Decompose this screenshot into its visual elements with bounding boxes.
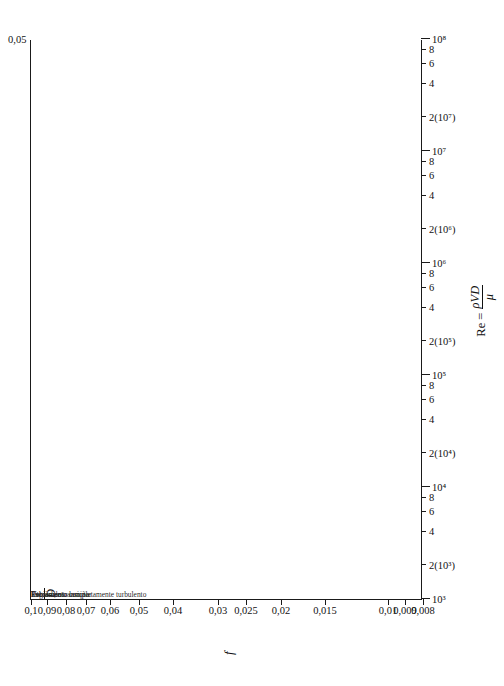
x-axis-tick xyxy=(421,161,426,162)
x-axis-tick-label: 10⁸ xyxy=(432,34,446,45)
y-axis-tick-label: 0,02 xyxy=(272,605,290,616)
x-axis-tick xyxy=(421,598,430,599)
rotated-chart-canvas: 0,10,090,080,070,060,050,040,030,0250,02… xyxy=(0,0,504,686)
x-axis-tick-label: 10⁴ xyxy=(432,482,446,493)
x-axis-tick-label: 10⁵ xyxy=(432,370,446,381)
x-axis-tick-label: 6 xyxy=(429,394,434,405)
y-axis-tick-label: 0,04 xyxy=(164,605,182,616)
y-axis-tick-label: 0,1 xyxy=(24,605,37,616)
y-axis-tick-label: 0,07 xyxy=(77,605,95,616)
x-axis-tick-label: 4 xyxy=(429,190,434,201)
x-axis-tick xyxy=(421,38,430,39)
x-axis-tick-label: 6 xyxy=(429,282,434,293)
moody-diagram-figure: 0,10,090,080,070,060,050,040,030,0250,02… xyxy=(0,0,504,686)
x-axis-tick-label: 6 xyxy=(429,170,434,181)
x-axis-tick xyxy=(421,287,426,288)
x-axis-tick-label: 4 xyxy=(429,78,434,89)
y-axis-tick-label: 0,06 xyxy=(101,605,119,616)
x-axis-title-denominator: μ xyxy=(483,285,496,310)
x-axis-tick-label: 2(10⁵) xyxy=(429,336,455,347)
x-axis-tick xyxy=(421,340,426,341)
x-axis-tick xyxy=(421,497,426,498)
x-axis-tick-label: 6 xyxy=(429,58,434,69)
y-axis-title: f xyxy=(221,651,237,655)
x-axis-tick xyxy=(421,385,426,386)
x-axis-tick xyxy=(421,307,426,308)
y-axis-tick-label: 0,03 xyxy=(209,605,227,616)
y-axis-tick-label: 0,08 xyxy=(56,605,74,616)
plot-area: 0,10,090,080,070,060,050,040,030,0250,02… xyxy=(30,40,422,600)
x-axis-tick-label: 4 xyxy=(429,414,434,425)
x-axis-tick-label: 4 xyxy=(429,526,434,537)
x-axis-tick-label: 6 xyxy=(429,506,434,517)
x-axis-tick xyxy=(421,150,430,151)
x-axis-title: Re = ρVDμ xyxy=(469,285,495,337)
y-axis-title-text: f xyxy=(221,651,236,655)
y-axis-tick-label: 0,09 xyxy=(38,605,56,616)
y-axis-tick-label: 0,05 xyxy=(129,605,147,616)
x-axis-tick xyxy=(421,273,426,274)
x-axis-tick xyxy=(421,195,426,196)
x-axis-tick-label: 8 xyxy=(429,492,434,503)
x-axis-title-fraction: ρVDμ xyxy=(469,285,495,310)
y-axis-tick-label: 0,015 xyxy=(314,605,338,616)
x-axis-tick-label: 4 xyxy=(429,302,434,313)
x-axis-tick-label: 2(10⁶) xyxy=(429,224,455,235)
x-axis-tick xyxy=(421,262,430,263)
x-axis-tick xyxy=(421,175,426,176)
x-axis-tick xyxy=(421,63,426,64)
x-axis-tick xyxy=(421,564,426,565)
x-axis-tick-label: 8 xyxy=(429,156,434,167)
y-axis-tick-label: 0,025 xyxy=(234,605,258,616)
curve-layer xyxy=(31,39,423,599)
x-axis-tick-label: 10⁷ xyxy=(432,146,446,157)
relative-roughness-label: 0,05 xyxy=(8,34,26,45)
x-axis-tick-label: 8 xyxy=(429,268,434,279)
annotation-smooth-pipes: Tubos lisos xyxy=(31,591,65,599)
x-axis-tick xyxy=(421,49,426,50)
x-axis-tick-label: 2(10³) xyxy=(429,560,455,571)
x-axis-tick-label: 8 xyxy=(429,380,434,391)
x-axis-tick xyxy=(421,531,426,532)
x-axis-tick xyxy=(421,486,430,487)
x-axis-tick-label: 10³ xyxy=(432,594,446,605)
x-axis-tick-label: 2(10⁴) xyxy=(429,448,455,459)
x-axis-tick xyxy=(421,374,430,375)
x-axis-tick xyxy=(421,228,426,229)
y-axis-tick-label: 0,008 xyxy=(411,605,435,616)
x-axis-tick-label: 8 xyxy=(429,44,434,55)
x-axis-title-prefix: Re = xyxy=(474,309,488,336)
x-axis-tick xyxy=(421,83,426,84)
x-axis-tick xyxy=(421,419,426,420)
x-axis-tick xyxy=(421,116,426,117)
x-axis-tick xyxy=(421,511,426,512)
x-axis-tick-label: 2(10⁷) xyxy=(429,112,455,123)
x-axis-tick xyxy=(421,399,426,400)
x-axis-tick xyxy=(421,452,426,453)
x-axis-tick-label: 10⁶ xyxy=(432,258,446,269)
x-axis-title-numerator: ρVD xyxy=(469,285,483,310)
